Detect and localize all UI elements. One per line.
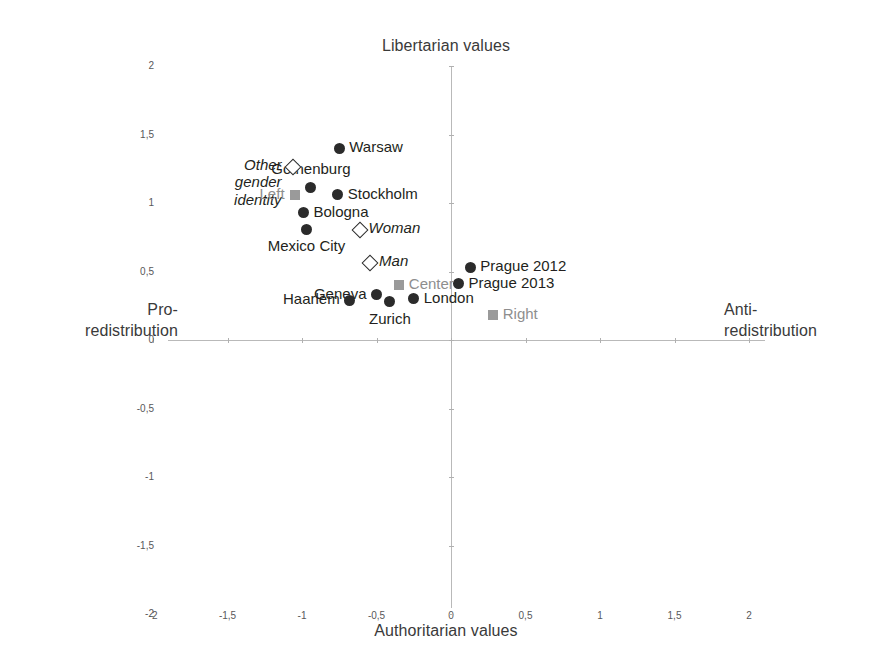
y-axis-line	[451, 66, 452, 608]
data-point-label: Right	[503, 305, 538, 322]
data-point-square	[394, 280, 404, 290]
data-point-diamond	[351, 222, 368, 239]
y-axis-tick	[449, 614, 454, 615]
data-point-label: Left	[0, 185, 285, 202]
y-axis-tick	[449, 340, 454, 341]
data-point-circle	[465, 262, 476, 273]
data-point-circle	[344, 295, 355, 306]
data-point-square	[290, 190, 300, 200]
data-point-label: Man	[379, 252, 408, 269]
y-axis-tick-label: -2	[120, 608, 154, 619]
data-point-circle	[298, 207, 309, 218]
y-axis-tick-label: 0,5	[120, 266, 154, 277]
scatter-chart: Libertarian values Authoritarian values …	[0, 0, 892, 666]
x-axis-tick-label: 1	[580, 610, 620, 621]
x-axis-tick-label: 1,5	[655, 610, 695, 621]
data-point-label: Warsaw	[349, 138, 403, 155]
y-axis-tick-label: -1,5	[120, 540, 154, 551]
x-axis-tick	[749, 338, 750, 343]
data-point-label: Center	[409, 275, 454, 292]
data-point-label: Bologna	[313, 203, 368, 220]
data-point-circle	[332, 189, 343, 200]
x-axis-tick	[228, 338, 229, 343]
x-axis-tick	[302, 338, 303, 343]
x-axis-tick	[526, 338, 527, 343]
y-axis-tick-label: 1,5	[120, 129, 154, 140]
y-axis-tick-label: 0	[120, 334, 154, 345]
data-point-circle	[384, 296, 395, 307]
data-point-square	[488, 310, 498, 320]
x-axis-tick-label: 0,5	[506, 610, 546, 621]
x-axis-tick-label: -0,5	[357, 610, 397, 621]
data-point-circle	[371, 289, 382, 300]
x-axis-tick	[377, 338, 378, 343]
data-point-circle	[305, 182, 316, 193]
x-axis-tick-label: 0	[431, 610, 471, 621]
y-axis-tick	[449, 203, 454, 204]
data-point-diamond	[362, 254, 379, 271]
x-axis-tick	[675, 338, 676, 343]
x-axis-tick-label: 2	[729, 610, 769, 621]
y-axis-tick	[449, 546, 454, 547]
plot-area: -2-1,5-1-0,500,511,5221,510,50-0,5-1-1,5…	[0, 0, 892, 666]
data-point-label: Prague 2013	[468, 274, 554, 291]
data-point-label: Woman	[369, 219, 421, 236]
y-axis-tick-label: -0,5	[120, 403, 154, 414]
y-axis-tick	[449, 272, 454, 273]
data-point-label: Prague 2012	[480, 257, 566, 274]
y-axis-tick-label: -1	[120, 471, 154, 482]
y-axis-tick	[449, 409, 454, 410]
data-point-circle	[453, 278, 464, 289]
x-axis-tick	[600, 338, 601, 343]
data-point-circle	[301, 224, 312, 235]
y-axis-tick-label: 2	[120, 60, 154, 71]
x-axis-tick-label: -1	[282, 610, 322, 621]
y-axis-tick	[449, 477, 454, 478]
data-point-circle	[408, 293, 419, 304]
y-axis-tick	[449, 135, 454, 136]
data-point-circle	[334, 143, 345, 154]
data-point-label: Haarlem	[40, 290, 340, 307]
data-point-label: Stockholm	[348, 185, 418, 202]
x-axis-tick-label: -1,5	[208, 610, 248, 621]
data-point-label: Zurich	[270, 310, 510, 327]
y-axis-tick	[449, 66, 454, 67]
